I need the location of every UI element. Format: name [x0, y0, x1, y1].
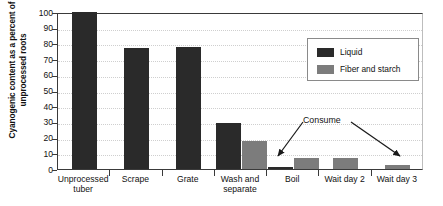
- gridline: [58, 93, 422, 94]
- x-axis-label: Boil: [266, 174, 318, 184]
- x-axis-label-line1: Wait day 2: [318, 174, 370, 184]
- legend-item-fiber-and-starch: Fiber and starch: [317, 63, 401, 75]
- bar: [333, 158, 358, 169]
- bar: [242, 141, 267, 169]
- legend-swatch-liquid: [317, 48, 334, 57]
- x-axis-label-line1: Scrape: [109, 174, 161, 184]
- x-axis-label: Wash andseparate: [214, 174, 266, 195]
- bar: [385, 165, 410, 169]
- y-tick-label: 0: [29, 165, 53, 175]
- y-tick-label: 60: [29, 70, 53, 80]
- x-axis-label: Wait day 2: [318, 174, 370, 184]
- legend-item-liquid: Liquid: [317, 46, 362, 58]
- x-axis-label-line2: tuber: [57, 184, 109, 194]
- legend: Liquid Fiber and starch: [307, 38, 419, 81]
- y-tick-label: 50: [29, 86, 53, 96]
- bar: [294, 158, 319, 169]
- legend-label-fiber-and-starch: Fiber and starch: [340, 64, 401, 74]
- y-tick-label: 100: [29, 8, 53, 18]
- x-axis-label: Scrape: [109, 174, 161, 184]
- bar: [176, 47, 201, 169]
- annotation-consume-label: Consume: [303, 115, 341, 125]
- x-axis-label-line1: Wait day 3: [371, 174, 423, 184]
- gridline: [58, 108, 422, 109]
- y-tick-label: 30: [29, 117, 53, 127]
- x-axis-label-line1: Grate: [162, 174, 214, 184]
- y-tick-label: 20: [29, 133, 53, 143]
- chart-figure: Cyanogenic content as a percent of unpro…: [0, 0, 443, 206]
- y-tick-mark: [52, 170, 57, 171]
- y-tick-label: 80: [29, 39, 53, 49]
- x-axis-label: Grate: [162, 174, 214, 184]
- bar: [124, 48, 149, 169]
- gridline: [58, 30, 422, 31]
- x-axis-label-line1: Wash and: [214, 174, 266, 184]
- x-axis-label: Unprocessedtuber: [57, 174, 109, 195]
- x-axis-label-line1: Boil: [266, 174, 318, 184]
- legend-swatch-fiber-and-starch: [317, 65, 334, 74]
- y-tick-label: 40: [29, 102, 53, 112]
- x-axis-label-line1: Unprocessed: [57, 174, 109, 184]
- y-tick-label: 70: [29, 55, 53, 65]
- y-tick-label: 10: [29, 149, 53, 159]
- x-axis-label-line2: separate: [214, 184, 266, 194]
- bar: [216, 123, 241, 169]
- bar: [72, 12, 97, 169]
- x-axis-label: Wait day 3: [371, 174, 423, 184]
- legend-label-liquid: Liquid: [340, 47, 362, 57]
- y-tick-label: 90: [29, 23, 53, 33]
- plot-area: [57, 13, 423, 170]
- bar: [268, 167, 293, 169]
